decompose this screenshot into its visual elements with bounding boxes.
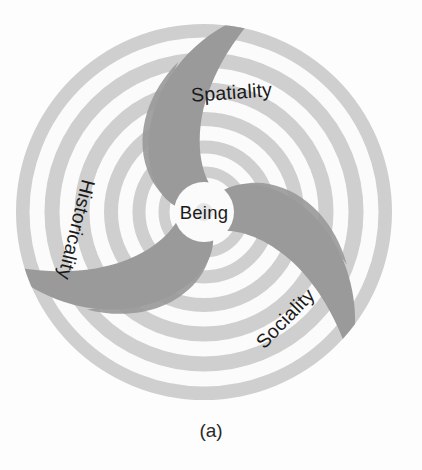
spiral-diagram: Spatiality Historicality Sociality Being [0,0,422,430]
figure-caption: (a) [0,420,422,442]
label-being: Being [180,202,228,223]
figure-container: Spatiality Historicality Sociality Being… [0,0,422,470]
